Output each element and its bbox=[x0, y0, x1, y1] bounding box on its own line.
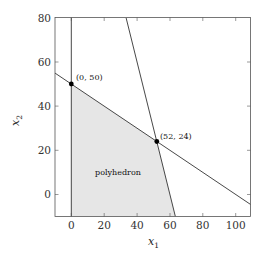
y-axis-label: x2 bbox=[9, 115, 24, 126]
y-tick-label: 80 bbox=[38, 12, 51, 24]
y-axis-label-group: x2 bbox=[9, 115, 24, 126]
polyhedron-chart: 0 20 40 60 80 100 0 20 40 60 80 (0, 50) … bbox=[0, 0, 262, 256]
x-tick-label: 100 bbox=[226, 219, 246, 231]
vertex-label-0-50: (0, 50) bbox=[76, 73, 103, 82]
x-tick-label: 20 bbox=[98, 219, 111, 231]
polyhedron-region bbox=[71, 84, 175, 217]
y-tick-label: 20 bbox=[38, 144, 51, 156]
y-tick-label: 0 bbox=[44, 188, 51, 200]
x-tick-label: 0 bbox=[68, 219, 75, 231]
y-tick-label: 60 bbox=[38, 56, 51, 68]
vertex-point-0-50 bbox=[69, 82, 74, 87]
y-tick-labels: 0 20 40 60 80 bbox=[38, 12, 51, 201]
x-tick-label: 40 bbox=[130, 219, 143, 231]
region-label: polyhedron bbox=[95, 168, 141, 177]
x-tick-labels: 0 20 40 60 80 100 bbox=[68, 219, 246, 231]
vertex-label-52-24: (52, 24) bbox=[160, 132, 192, 141]
x-axis-label: x1 bbox=[148, 235, 159, 250]
y-tick-label: 40 bbox=[38, 100, 51, 112]
x-tick-label: 80 bbox=[196, 219, 209, 231]
x-tick-label: 60 bbox=[163, 219, 176, 231]
vertex-point-52-24 bbox=[154, 139, 159, 144]
